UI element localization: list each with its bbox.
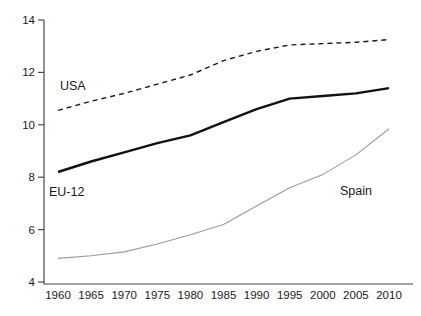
y-tick-label: 4 [29,276,36,288]
x-tick-label: 1985 [211,289,237,301]
series-line-eu-12 [58,88,389,172]
series-label-spain: Spain [340,184,372,198]
y-tick-label: 8 [29,171,35,183]
y-tick-label: 6 [29,224,35,236]
x-tick-label: 1960 [45,289,71,301]
y-tick-label: 14 [22,14,35,26]
series-label-eu-12: EU-12 [49,185,84,199]
x-tick-label: 1965 [78,289,104,301]
x-tick-label: 2005 [343,289,369,301]
axis-lines [44,20,413,284]
series-label-usa: USA [60,79,86,93]
y-tick-label: 10 [22,119,35,131]
x-tick-label: 1980 [178,289,204,301]
x-tick-label: 2000 [310,289,336,301]
x-tick-label: 1995 [277,289,303,301]
x-tick-label: 1970 [111,289,137,301]
line-chart: 4681012141960196519701975198019851990199… [0,0,421,316]
y-tick-label: 12 [22,66,35,78]
x-tick-label: 1990 [244,289,270,301]
chart-plot-area: 4681012141960196519701975198019851990199… [0,0,421,316]
x-tick-label: 2010 [376,289,402,301]
x-tick-label: 1975 [145,289,171,301]
series-line-usa [58,40,389,111]
